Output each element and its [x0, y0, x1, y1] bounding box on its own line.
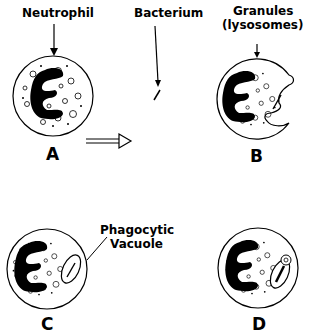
- vacuole-label-line1: Phagocytic: [100, 223, 174, 237]
- phagocytosis-diagram: Neutrophil Bacterium Granules (lysosomes…: [0, 0, 314, 334]
- neutrophil-label: Neutrophil: [22, 6, 94, 20]
- cell-a: [13, 56, 93, 136]
- granules-label-line2: (lysosomes): [222, 18, 303, 32]
- panel-label-a: A: [46, 144, 59, 164]
- diagram-graphics: [0, 0, 314, 334]
- panel-label-d: D: [252, 314, 266, 334]
- vacuole-label-line2: Vacuole: [110, 237, 163, 251]
- cell-b: [217, 59, 294, 139]
- panel-label-b: B: [250, 146, 263, 166]
- cell-d: [218, 228, 298, 308]
- cell-c: [7, 229, 87, 309]
- panel-label-c: C: [41, 314, 53, 334]
- bacterium-label: Bacterium: [134, 6, 203, 20]
- granules-label-line1: Granules: [233, 4, 293, 18]
